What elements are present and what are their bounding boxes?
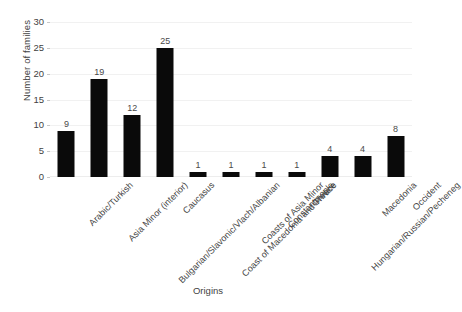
bar-slot: 19 bbox=[83, 22, 116, 177]
bar[interactable] bbox=[91, 79, 108, 177]
bar-slot: 4 bbox=[346, 22, 379, 177]
bar-slot: 4 bbox=[313, 22, 346, 177]
x-axis-tick-labels: Arabic/TurkishAsia Minor (interior)Bulga… bbox=[50, 180, 412, 290]
bar[interactable] bbox=[255, 172, 272, 177]
bar[interactable] bbox=[157, 48, 174, 177]
bar-value-label: 1 bbox=[196, 161, 201, 170]
bar[interactable] bbox=[321, 156, 338, 177]
bar-value-label: 12 bbox=[127, 104, 137, 113]
bar[interactable] bbox=[387, 136, 404, 177]
bar-value-label: 1 bbox=[228, 161, 233, 170]
x-axis-tick-label: Hungarian/Russian/Pecheneg bbox=[369, 180, 462, 273]
bar-slot: 1 bbox=[280, 22, 313, 177]
y-axis-tick-label: 10 bbox=[18, 120, 44, 130]
bar-value-label: 8 bbox=[393, 125, 398, 134]
bar-slot: 8 bbox=[379, 22, 412, 177]
y-axis-tick-mark bbox=[47, 177, 50, 178]
y-axis-tick-label: 15 bbox=[18, 95, 44, 105]
bar-slot: 1 bbox=[247, 22, 280, 177]
bar-value-label: 1 bbox=[261, 161, 266, 170]
plot-area: 91912251111448 bbox=[50, 22, 412, 177]
bar[interactable] bbox=[222, 172, 239, 177]
y-axis-tick-labels: 051015202530 bbox=[18, 0, 44, 312]
bar-slot: 9 bbox=[50, 22, 83, 177]
y-axis-tick-label: 25 bbox=[18, 43, 44, 53]
bar[interactable] bbox=[190, 172, 207, 177]
bar-slot: 1 bbox=[215, 22, 248, 177]
bar-value-label: 25 bbox=[160, 37, 170, 46]
y-axis-tick-label: 0 bbox=[18, 172, 44, 182]
x-axis-title: Origins bbox=[0, 285, 416, 296]
bar[interactable] bbox=[124, 115, 141, 177]
bar-value-label: 4 bbox=[360, 145, 365, 154]
bar-value-label: 1 bbox=[294, 161, 299, 170]
x-axis-tick-label: Arabic/Turkish bbox=[87, 180, 135, 228]
y-axis-tick-label: 30 bbox=[18, 17, 44, 27]
bar-value-label: 19 bbox=[94, 68, 104, 77]
bar-slot: 25 bbox=[149, 22, 182, 177]
bar-value-label: 4 bbox=[327, 145, 332, 154]
bar-value-label: 9 bbox=[64, 120, 69, 129]
x-axis-tick-label: Macedonia bbox=[380, 180, 419, 219]
y-axis-tick-label: 20 bbox=[18, 69, 44, 79]
y-axis-tick-label: 5 bbox=[18, 146, 44, 156]
bar-slot: 12 bbox=[116, 22, 149, 177]
bar[interactable] bbox=[58, 131, 75, 178]
bar[interactable] bbox=[288, 172, 305, 177]
x-axis-tick-label: Asia Minor (interior) bbox=[127, 180, 190, 243]
bar-slot: 1 bbox=[182, 22, 215, 177]
bar[interactable] bbox=[354, 156, 371, 177]
